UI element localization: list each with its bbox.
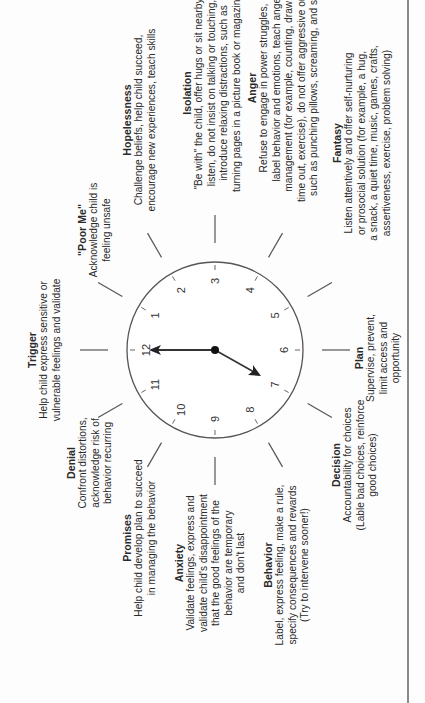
stage-text: specify consequences and rewards (287, 485, 299, 646)
clock-number: 2 (175, 287, 187, 293)
clock-number: 6 (278, 347, 290, 353)
stage-text: encourage new experiences, teach skills (146, 29, 158, 212)
stage-promises: Promises Help child develop plan to succ… (121, 459, 158, 616)
clock-number: 4 (244, 287, 256, 293)
stage-text: feeling unsafe (101, 183, 113, 278)
clock-number: 9 (209, 416, 221, 422)
stage-text: opportunity (390, 314, 402, 402)
stage-text: (Lable bad choices, reinforce (355, 400, 367, 531)
clock-spoke (308, 283, 332, 297)
stage-text: Refuse to engage in power struggles, (258, 0, 270, 202)
stage-text: or prosocial solution (for example, a hu… (356, 45, 368, 240)
stage-text: acknowledge risk of (90, 417, 102, 508)
stage-decision: Decision Accountability for choices (Lab… (330, 400, 380, 531)
stage-title: Fantasy (331, 45, 343, 240)
stage-denial: Denial Confront distortions, acknowledge… (65, 417, 115, 508)
stage-text: vulnerable feelings and validate (51, 279, 63, 422)
stage-poor-me: "Poor Me" Acknowledge child is feeling u… (76, 183, 113, 278)
stage-text: Validate feelings, express and (185, 494, 197, 632)
stage-isolation: Isolation "Be with" the child, offer hug… (181, 0, 243, 192)
clock-spoke (98, 404, 122, 418)
stage-title: Plan (353, 314, 365, 402)
stage-title: Promises (121, 459, 133, 616)
stage-title: Anxiety (173, 494, 185, 632)
stage-plan: Plan Supervise, prevent, limit access an… (353, 314, 403, 402)
clock-center-pin (211, 346, 219, 354)
stage-text: turning pages in a picture book or magaz… (231, 0, 243, 192)
stage-title: Anger (246, 0, 258, 202)
stage-text: Listen attentively and offer self-nurtur… (343, 45, 355, 240)
stage-text: Acknowledge child is (89, 183, 101, 278)
clock-number: 8 (244, 407, 256, 413)
stage-anger: Anger Refuse to engage in power struggle… (246, 0, 320, 202)
stage-text: time out, exercise), do not offer aggres… (295, 0, 307, 202)
clock-number: 1 (149, 312, 161, 318)
stage-text: behavior recurring (102, 417, 114, 508)
clock-number: 11 (149, 379, 161, 390)
stage-text: and don't last (235, 494, 247, 632)
stage-text: label behavior and emotions, teach anger (271, 0, 283, 202)
stage-title: "Poor Me" (76, 183, 88, 278)
stage-text: assertiveness, exercise, problem solving… (381, 45, 393, 240)
rotated-page: 121234567891011 Trigger Help child expre… (0, 0, 425, 703)
stage-title: Trigger (26, 279, 38, 422)
stage-title: Decision (330, 400, 342, 531)
clock-number: 7 (269, 381, 281, 387)
stage-title: Denial (65, 417, 77, 508)
stage-text: "Be with" the child, offer hugs or sit n… (193, 0, 205, 192)
clock-number: 10 (175, 404, 187, 416)
clock-spoke (308, 404, 332, 418)
stage-text: Help child express sensitive or (39, 279, 51, 422)
stage-text: (Try to intervene sooner!) (299, 485, 311, 646)
clock-spoke (269, 233, 283, 257)
stage-text: introduce relaxing distractions, such as (218, 0, 230, 192)
stage-text: Supervise, prevent, (366, 314, 378, 402)
stage-text: in managing the behavior (146, 459, 158, 616)
clock-spoke (98, 283, 122, 297)
stage-behavior: Behavior Label, express feeling, make a … (262, 485, 312, 646)
stage-text: Accountability for choices (343, 400, 355, 531)
stage-text: a snack, a quiet time, music, games, cra… (368, 45, 380, 240)
clock-number: 5 (269, 312, 281, 318)
stage-text: that the good feelings of the (210, 494, 222, 632)
stage-fantasy: Fantasy Listen attentively and offer sel… (331, 45, 393, 240)
stage-text: validate child's disappointment (198, 494, 210, 632)
stage-text: management (for example, counting, drawi… (283, 0, 295, 202)
stage-hopelessness: Hopelessness Challenge beliefs, help chi… (121, 29, 158, 212)
stage-text: Help child develop plan to succeed (134, 459, 146, 616)
stage-text: Label, express feeling, make a rule, (275, 485, 287, 646)
stage-title: Behavior (262, 485, 274, 646)
clock-number: 3 (209, 278, 221, 284)
clock-spoke (269, 443, 283, 467)
clock-spoke (148, 233, 162, 257)
stage-text: Confront distortions, (78, 417, 90, 508)
stage-title: Isolation (181, 0, 193, 192)
stage-title: Hopelessness (121, 29, 133, 212)
stage-text: good choices) (367, 400, 379, 531)
stage-text: such as punching pillows, screaming, and… (308, 0, 320, 202)
stage-trigger: Trigger Help child express sensitive or … (26, 279, 63, 422)
stage-text: listen, do not insist on talking or touc… (206, 0, 218, 192)
stage-text: behavior are temporary (222, 494, 234, 632)
stage-text: limit access and (378, 314, 390, 402)
stage-text: Challenge beliefs, help child succeed, (134, 29, 146, 212)
stage-anxiety: Anxiety Validate feelings, express and v… (173, 494, 247, 632)
